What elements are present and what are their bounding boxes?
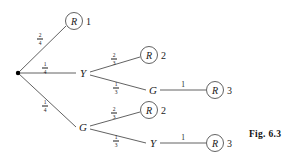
outcome-number-r2-upper: 2 bbox=[161, 50, 166, 61]
fraction-denominator: 3 bbox=[109, 89, 123, 95]
outcome-number-r3-lower: 3 bbox=[227, 138, 232, 149]
edge-label-root-top: 2 4 bbox=[33, 33, 47, 46]
figure-container: R 1 Y R 2 G R 3 G R 2 Y R 3 2 4 1 4 bbox=[0, 0, 302, 159]
edge-label-y-top: 2 3 bbox=[107, 53, 121, 66]
edge-label-g-top: 2 3 bbox=[107, 107, 121, 120]
node-label-r3-lower: R bbox=[211, 138, 218, 149]
fraction-numerator: 1 bbox=[109, 135, 123, 141]
root-node-dot bbox=[16, 71, 20, 75]
fraction-denominator: 4 bbox=[38, 107, 52, 113]
node-label-g-child-of-y: G bbox=[149, 84, 157, 96]
node-label-g: G bbox=[79, 121, 87, 133]
edge-label-root-bot: 1 4 bbox=[38, 100, 52, 113]
fraction-numerator: 2 bbox=[107, 53, 121, 59]
node-label-r3-upper: R bbox=[211, 85, 218, 96]
fraction-denominator: 4 bbox=[38, 69, 52, 75]
node-label-r2-lower: R bbox=[145, 105, 152, 116]
outcome-number-r1: 1 bbox=[86, 16, 91, 27]
fraction-numerator: 2 bbox=[107, 107, 121, 113]
edge-label-g-bot: 1 3 bbox=[109, 135, 123, 148]
outcome-number-r2-lower: 2 bbox=[161, 105, 166, 116]
figure-caption: Fig. 6.3 bbox=[249, 129, 281, 139]
fraction-numerator: 1 bbox=[38, 100, 52, 106]
fraction-numerator: 1 bbox=[38, 62, 52, 68]
fraction-denominator: 3 bbox=[109, 142, 123, 148]
edge-label-root-mid: 1 4 bbox=[38, 62, 52, 75]
fraction-denominator: 4 bbox=[33, 40, 47, 46]
fraction-denominator: 3 bbox=[107, 114, 121, 120]
node-label-r2-upper: R bbox=[145, 50, 152, 61]
outcome-number-r3-upper: 3 bbox=[227, 85, 232, 96]
fraction-denominator: 3 bbox=[107, 60, 121, 66]
edge-label-y-bot: 1 3 bbox=[109, 82, 123, 95]
fraction-numerator: 1 bbox=[109, 82, 123, 88]
node-label-y: Y bbox=[80, 67, 88, 79]
edge-label-y-to-r3: 1 bbox=[181, 133, 185, 142]
edge-label-g-to-r3: 1 bbox=[181, 80, 185, 89]
node-label-r1: R bbox=[70, 16, 77, 27]
fraction-numerator: 2 bbox=[33, 33, 47, 39]
node-label-y-child-of-g: Y bbox=[150, 137, 158, 149]
